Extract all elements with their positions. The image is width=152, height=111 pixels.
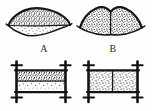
specimen-b-bottom-view — [78, 58, 148, 108]
figure-root: A B — [0, 0, 152, 111]
specimen-b-frame-left-half — [88, 71, 112, 93]
specimen-b-top-view — [76, 3, 146, 41]
specimen-label-a: A — [37, 44, 51, 54]
specimen-b-frame-drawing — [78, 58, 148, 108]
specimen-a-lens-drawing — [6, 4, 72, 40]
specimen-b-lens-drawing — [76, 3, 146, 41]
specimen-a-top-view — [6, 4, 72, 40]
specimen-b-frame-right-half — [113, 71, 138, 93]
specimen-a-frame-upper-layer — [16, 71, 66, 82]
specimen-a-frame-drawing — [6, 58, 76, 108]
specimen-a-frame-lower-layer — [16, 82, 66, 93]
specimen-label-b: B — [106, 44, 120, 54]
specimen-a-bottom-view — [6, 58, 76, 108]
